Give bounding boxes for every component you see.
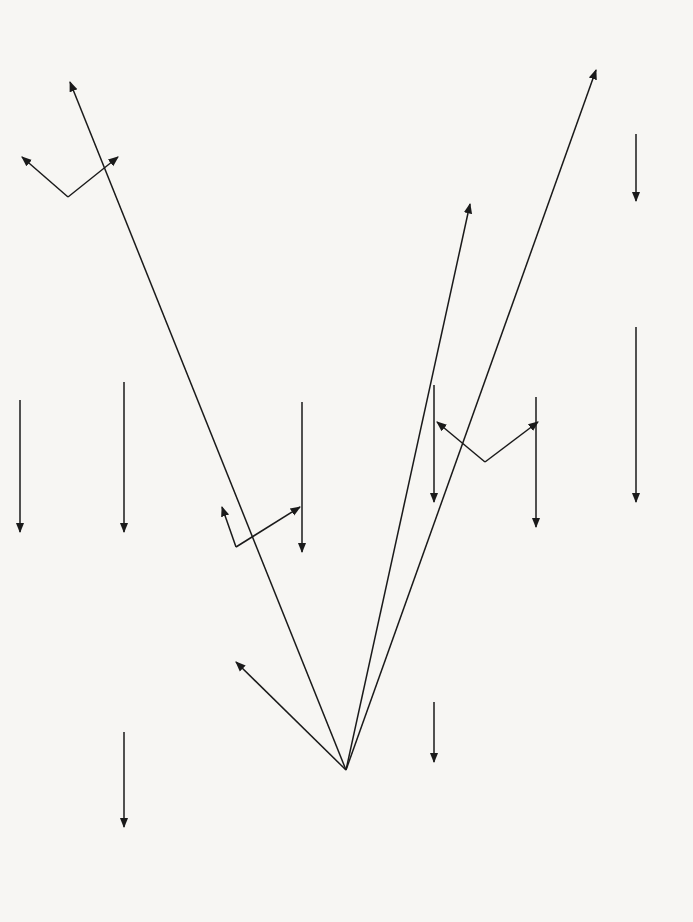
figure-canvas [0,0,693,922]
reaction-arrows [0,0,693,922]
